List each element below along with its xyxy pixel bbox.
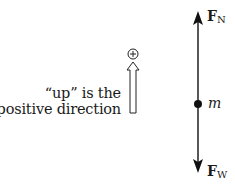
force-subscript: W	[217, 169, 227, 180]
plus-circle-icon	[128, 49, 138, 59]
sign-convention-line2: positive direction	[0, 101, 121, 117]
force-symbol: F	[207, 8, 217, 24]
force-subscript: N	[217, 14, 226, 25]
force-symbol: F	[207, 163, 217, 179]
sign-convention-line1: “up” is the	[45, 85, 121, 101]
hollow-up-arrow-icon	[127, 62, 139, 113]
weight-force-label: FW	[207, 163, 227, 180]
normal-force-label: FN	[207, 8, 226, 25]
mass-dot	[194, 100, 202, 108]
mass-label: m	[208, 95, 221, 111]
